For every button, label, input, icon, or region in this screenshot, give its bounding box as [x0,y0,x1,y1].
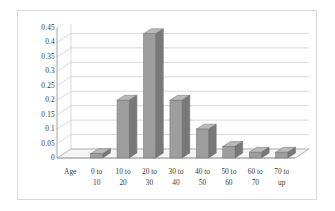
chart-svg [55,24,313,164]
bar-side-face [129,95,137,158]
bar-front-face [91,154,103,158]
gridline-depth-connector [57,62,71,71]
x-axis-tick-label-line1: 20 to [142,167,157,176]
bar-10-to-20 [117,95,137,158]
gridline-depth-connector [57,24,71,28]
bar-side-face [209,124,217,158]
gridline-depth-connector [57,77,71,86]
y-axis-tick-label: 0.25 [17,82,55,90]
x-axis-tick-label-line1: Age [64,167,76,176]
y-axis-tick-label: 0.3 [17,67,55,75]
y-axis-tick-label: 0.1 [17,125,55,133]
gridline-depth-connector [57,33,71,42]
gridline-depth-connector [57,106,71,115]
bar-front-face [117,100,129,158]
x-axis-tick-label-line1: 30 to [169,167,184,176]
y-axis-tick-label: 0.4 [17,38,55,46]
bar-front-face [196,129,208,158]
bar-20-to-30 [143,29,163,158]
bar-40-to-50 [196,124,216,158]
gridline-depth-connector [57,135,71,144]
chart-container: 00.050.10.150.20.250.30.350.40.45 Age0 t… [0,0,335,211]
gridline-depth-connector [57,120,71,129]
bar-front-face [276,152,288,158]
bar-front-face [223,146,235,158]
y-axis-tick-label: 0.05 [17,140,55,148]
x-axis-tick-label: 70 toup [265,167,299,188]
bar-front-face [143,34,155,158]
x-axis-tick-label-line1: 50 to [221,167,236,176]
x-axis-category-labels: Age0 to1010 to2020 to3030 to4040 to5050 … [17,167,317,197]
bar-front-face [249,152,261,158]
y-axis-tick-label: 0.45 [17,24,55,32]
x-axis-tick-label-line2: up [265,178,299,189]
gridline-depth-connector [57,48,71,57]
x-axis-tick-label-line1: 40 to [195,167,210,176]
bar-30-to-40 [170,95,190,158]
x-axis-tick-label-line1: 60 to [248,167,263,176]
y-axis-tick-label: 0.2 [17,96,55,104]
bar-front-face [170,100,182,158]
x-axis-tick-label-line1: 0 to [91,167,102,176]
y-axis-tick-label: 0.35 [17,53,55,61]
x-axis-tick-label-line1: 10 to [116,167,131,176]
bar-side-face [156,29,164,158]
y-axis-tick-labels: 00.050.10.150.20.250.30.350.40.45 [17,18,55,168]
y-axis-tick-label: 0.15 [17,111,55,119]
bar-side-face [182,95,190,158]
y-axis-tick-label: 0 [17,154,55,162]
plot-area [55,24,313,164]
x-axis-tick-label-line1: 70 to [274,167,289,176]
gridline-depth-connector [57,91,71,100]
